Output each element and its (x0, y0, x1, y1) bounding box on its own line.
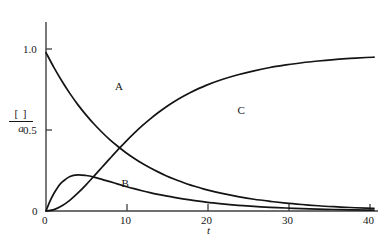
x-tick-label-30: 30 (282, 214, 293, 226)
chart-plot-area (0, 0, 388, 239)
y-axis-denominator: a (6, 122, 36, 135)
x-tick-label-10: 10 (120, 214, 131, 226)
curve-series-c (46, 57, 374, 211)
y-tick-label-1-0: 1.0 (23, 43, 37, 55)
x-tick-label-40: 40 (363, 214, 374, 226)
y-axis-numerator: [ ] (6, 108, 36, 121)
curve-label-a: A (115, 80, 123, 92)
curve-label-b: B (121, 177, 128, 189)
kinetics-chart-figure: 0 0.5 1.0 [ ] a 0 10 20 30 40 t A B C (0, 0, 388, 239)
curve-series-a (46, 53, 374, 209)
y-tick-label-0: 0 (32, 205, 38, 217)
x-axis-title: t (207, 224, 210, 236)
x-tick-label-0: 0 (42, 214, 48, 226)
curve-label-c: C (237, 104, 244, 116)
y-axis-title: [ ] a (6, 108, 36, 134)
